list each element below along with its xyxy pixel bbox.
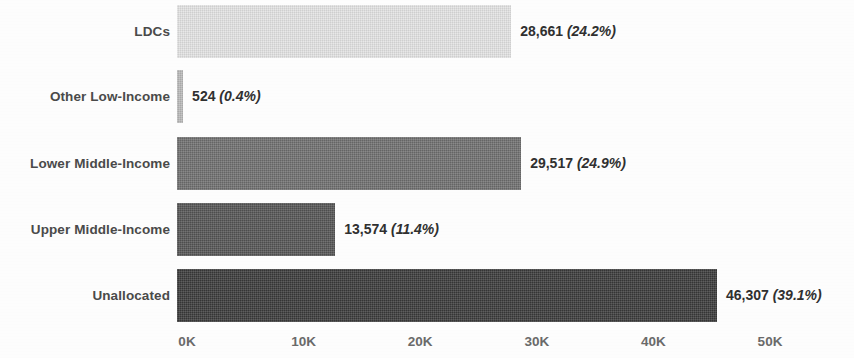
bar-value-number: 13,574 <box>344 221 387 237</box>
bar[interactable] <box>177 5 511 58</box>
category-label: LDCs <box>0 5 170 58</box>
bar-value-label: 524 (0.4%) <box>192 70 260 123</box>
bar-chart: LDCs28,661 (24.2%)Other Low-Income524 (0… <box>0 0 854 358</box>
bar-value-label: 28,661 (24.2%) <box>520 5 616 58</box>
x-tick-label: 10K <box>291 334 316 349</box>
bar-value-label: 13,574 (11.4%) <box>344 203 439 256</box>
bar-value-percent: (24.2%) <box>567 23 616 39</box>
bar-row: Other Low-Income524 (0.4%) <box>0 70 854 123</box>
category-label: Other Low-Income <box>0 70 170 123</box>
x-tick-label: 0K <box>178 334 195 349</box>
category-label: Lower Middle-Income <box>0 137 170 190</box>
bar-value-number: 28,661 <box>520 23 563 39</box>
plot-area: LDCs28,661 (24.2%)Other Low-Income524 (0… <box>0 0 854 358</box>
category-label: Upper Middle-Income <box>0 203 170 256</box>
bar-value-number: 524 <box>192 88 215 104</box>
x-tick-label: 40K <box>641 334 666 349</box>
bar[interactable] <box>177 269 717 322</box>
category-label: Unallocated <box>0 269 170 322</box>
bar-row: Unallocated46,307 (39.1%) <box>0 269 854 322</box>
bar-row: Upper Middle-Income13,574 (11.4%) <box>0 203 854 256</box>
bar[interactable] <box>177 137 521 190</box>
x-axis: 0K10K20K30K40K50K <box>0 330 854 358</box>
bar-value-percent: (0.4%) <box>219 88 260 104</box>
bar-value-percent: (11.4%) <box>391 221 439 237</box>
bar-value-number: 29,517 <box>530 155 573 171</box>
bar-value-label: 46,307 (39.1%) <box>726 269 822 322</box>
x-tick-label: 20K <box>408 334 433 349</box>
bar-value-percent: (24.9%) <box>577 155 626 171</box>
bar[interactable] <box>177 70 183 123</box>
bar-value-label: 29,517 (24.9%) <box>530 137 626 190</box>
bar-value-percent: (39.1%) <box>773 287 822 303</box>
bar-row: Lower Middle-Income29,517 (24.9%) <box>0 137 854 190</box>
bar-row: LDCs28,661 (24.2%) <box>0 5 854 58</box>
bar-value-number: 46,307 <box>726 287 769 303</box>
bar[interactable] <box>177 203 335 256</box>
x-tick-label: 30K <box>524 334 549 349</box>
x-tick-label: 50K <box>758 334 783 349</box>
